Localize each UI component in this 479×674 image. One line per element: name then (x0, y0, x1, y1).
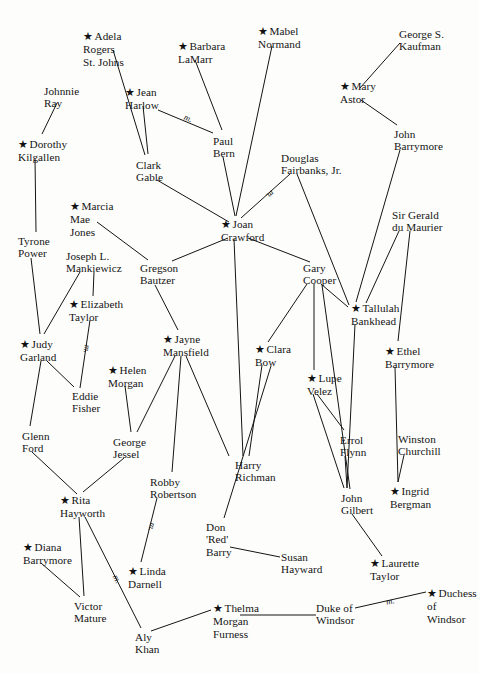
edge-joan-harryr (234, 239, 243, 456)
node-gable[interactable]: Clark Gable (136, 159, 163, 184)
node-label: Paul Bern (213, 135, 235, 159)
node-label: Robby Robertson (150, 476, 196, 500)
node-glenn[interactable]: Glenn Ford (22, 430, 50, 455)
node-judy[interactable]: ★Judy Garland (20, 338, 56, 364)
star-icon: ★ (221, 219, 231, 230)
node-paulbern[interactable]: Paul Bern (213, 135, 235, 160)
node-adela[interactable]: ★Adela Rogers St. Johns (83, 30, 124, 68)
node-ingrid[interactable]: ★Ingrid Bergman (390, 485, 431, 511)
star-icon: ★ (69, 299, 79, 310)
edge-judy-glenn (30, 361, 41, 426)
node-susan[interactable]: Susan Hayward (281, 551, 322, 576)
node-linda[interactable]: ★Linda Darnell (128, 565, 166, 591)
star-icon: ★ (340, 81, 350, 92)
node-eddie[interactable]: Eddie Fisher (72, 390, 100, 415)
node-label: Errol Flynn (340, 434, 366, 458)
edge-glenn-rita (32, 452, 77, 494)
star-icon: ★ (255, 344, 265, 355)
node-label: Glenn Ford (22, 430, 50, 454)
node-aly[interactable]: Aly Khan (135, 631, 159, 656)
edge-jayne-harryr (186, 356, 229, 456)
node-winston[interactable]: Winston Churchill (398, 433, 441, 458)
edge-gregson-jayne (155, 285, 178, 330)
star-icon: ★ (128, 566, 138, 577)
node-elizabeth[interactable]: ★Elizabeth Taylor (69, 298, 123, 324)
star-icon: ★ (163, 334, 173, 345)
node-jayne[interactable]: ★Jayne Mansfield (163, 333, 209, 359)
star-icon: ★ (108, 365, 118, 376)
star-icon: ★ (18, 139, 28, 150)
star-icon: ★ (427, 588, 437, 599)
node-mabel[interactable]: ★Mabel Normand (258, 25, 301, 51)
node-errol[interactable]: Errol Flynn (340, 434, 366, 459)
node-jessel[interactable]: George Jessel (113, 436, 146, 461)
edge-barbara-paulbern (195, 60, 222, 130)
star-icon: ★ (70, 201, 80, 212)
node-duchess[interactable]: ★Duchess of Windsor (427, 587, 479, 625)
network-diagram-canvas: ★Adela Rogers St. Johns★Barbara LaMarr★M… (0, 0, 479, 674)
node-label: Eddie Fisher (72, 390, 100, 414)
node-clara[interactable]: ★Clara Bow (255, 343, 291, 369)
node-joan[interactable]: ★Joan Crawford (221, 218, 264, 244)
node-laurette[interactable]: ★Laurette Taylor (370, 557, 419, 583)
edge-joan-gregson (172, 238, 228, 261)
node-label: Sir Gerald du Maurier (392, 209, 443, 233)
edge-elizabeth-eddie (80, 320, 90, 388)
edge-aly-thelma (151, 610, 211, 631)
node-tallulah[interactable]: ★Tallulah Bankhead (351, 302, 399, 328)
edge-gerald-ethel (398, 231, 410, 341)
edge-harlow-gable (143, 106, 148, 154)
node-rita[interactable]: ★Rita Hayworth (60, 494, 105, 520)
node-tyrone[interactable]: Tyrone Power (18, 235, 50, 260)
node-label: John Barrymore (394, 128, 443, 152)
edge-gerald-tallulah (366, 231, 399, 303)
star-icon: ★ (20, 339, 30, 350)
node-helen[interactable]: ★Helen Morgan (108, 364, 146, 390)
star-icon: ★ (307, 373, 317, 384)
node-thelma[interactable]: ★Thelma Morgan Furness (213, 602, 259, 640)
edge-jayne-robby (172, 356, 181, 472)
node-harlow[interactable]: ★Jean Harlow (125, 86, 159, 112)
node-label: Winston Churchill (398, 433, 441, 457)
node-lupe[interactable]: ★Lupe Velez (307, 372, 342, 398)
node-label: Clark Gable (136, 159, 163, 183)
node-kaufman[interactable]: George S. Kaufman (399, 28, 444, 53)
node-barbara[interactable]: ★Barbara LaMarr (178, 40, 225, 66)
node-gilbert[interactable]: John Gilbert (341, 492, 373, 517)
node-label: Duke of Windsor (316, 602, 354, 626)
node-robby[interactable]: Robby Robertson (150, 476, 196, 501)
edge-gable-joan (157, 180, 229, 222)
node-maryastor[interactable]: ★Mary Astor (340, 80, 376, 106)
edge-joseph-elizabeth (93, 272, 94, 296)
node-joseph[interactable]: Joseph L. Mankiewicz (66, 250, 122, 275)
node-label: Aly Khan (135, 631, 159, 655)
node-harryr[interactable]: Harry Richman (235, 459, 276, 484)
edge-gilbert-laurette (352, 514, 382, 556)
node-gerald[interactable]: Sir Gerald du Maurier (392, 209, 443, 234)
node-ethel[interactable]: ★Ethel Barrymore (385, 345, 434, 371)
node-label: Gregson Bautzer (140, 262, 178, 286)
star-icon: ★ (258, 26, 268, 37)
node-marcia[interactable]: ★Marcia Mae Jones (70, 200, 113, 238)
node-gregson[interactable]: Gregson Bautzer (140, 262, 178, 287)
node-victor[interactable]: Victor Mature (74, 600, 107, 625)
node-jbarry[interactable]: John Barrymore (394, 128, 443, 153)
node-gary[interactable]: Gary Cooper (303, 262, 336, 287)
star-icon: ★ (60, 495, 70, 506)
edge-gary-clara (268, 284, 307, 342)
node-dukew[interactable]: Duke of Windsor (316, 602, 354, 627)
node-dorothy[interactable]: ★Dorothy Kilgallen (18, 138, 67, 164)
node-diana[interactable]: ★Diana Barrymore (23, 541, 72, 567)
edge-donred-susan (230, 547, 280, 557)
edge-tyrone-judy (31, 258, 40, 334)
node-label: Tyrone Power (18, 235, 50, 259)
edge-jessel-rita (83, 458, 124, 492)
node-johnnie[interactable]: Johnnie Ray (44, 85, 79, 110)
edge-helen-jessel (125, 386, 131, 432)
node-label: Victor Mature (74, 600, 107, 624)
star-icon: ★ (390, 486, 400, 497)
node-fairbanks[interactable]: Douglas Fairbanks, Jr. (281, 152, 342, 177)
edge-judy-eddie (47, 361, 74, 387)
star-icon: ★ (83, 31, 93, 42)
node-donred[interactable]: Don 'Red' Barry (206, 521, 232, 558)
